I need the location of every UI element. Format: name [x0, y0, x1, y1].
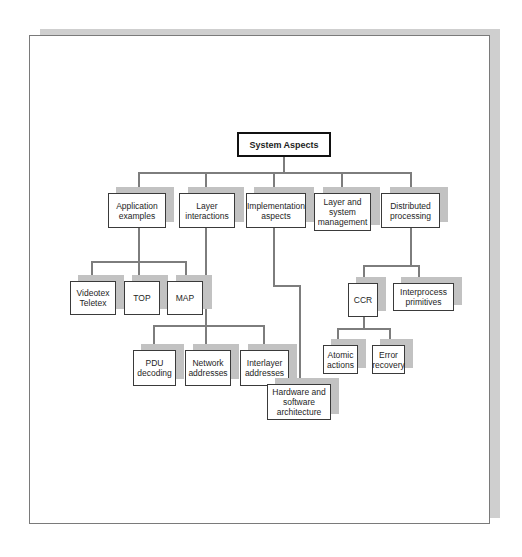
node-system-aspects: System Aspects	[237, 132, 331, 157]
node-atomic-actions: Atomic actions	[323, 345, 358, 374]
node-layer-system-management: Layer and system management	[314, 193, 371, 231]
connector	[273, 285, 301, 287]
connector	[138, 172, 412, 174]
node-top: TOP	[124, 281, 160, 315]
node-implementation-aspects: Implementation aspects	[246, 193, 306, 228]
node-distributed-processing: Distributed processing	[381, 193, 440, 228]
node-error-recovery: Error recovery	[372, 345, 405, 374]
connector	[299, 285, 301, 384]
node-network-addresses: Network addresses	[185, 350, 231, 386]
connector	[363, 265, 420, 267]
node-application-examples: Application examples	[108, 193, 166, 228]
node-layer-interactions: Layer interactions	[179, 193, 235, 228]
connector	[138, 228, 140, 262]
node-hardware-software-architecture: Hardware and software architecture	[267, 384, 331, 420]
node-interprocess-primitives: Interprocess primitives	[393, 283, 454, 311]
node-videotex-teletex: Videotex Teletex	[70, 281, 116, 315]
connector	[153, 325, 265, 327]
node-pdu-decoding: PDU decoding	[133, 350, 176, 386]
connector	[337, 328, 391, 330]
connector	[410, 228, 412, 266]
node-ccr: CCR	[348, 283, 378, 317]
node-map: MAP	[167, 281, 203, 315]
connector	[273, 228, 275, 286]
